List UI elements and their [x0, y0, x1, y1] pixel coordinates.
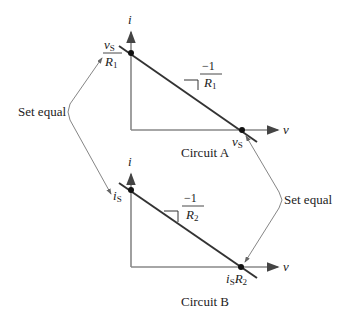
set-equal-right: Set equal	[245, 136, 332, 262]
svg-text:−1: −1	[202, 59, 215, 73]
x-intercept-dot-a	[239, 127, 245, 133]
load-line-a	[119, 46, 257, 142]
arrow-right-up	[246, 136, 279, 192]
set-equal-left-label: Set equal	[18, 104, 66, 119]
arrow-left-down	[70, 120, 111, 194]
set-equal-left: Set equal	[18, 58, 111, 194]
caption-circuit-a: Circuit A	[181, 145, 230, 160]
svg-text:−1: −1	[184, 191, 197, 205]
i-axis-label-a: i	[128, 12, 132, 27]
slope-triangle-a	[184, 80, 198, 90]
svg-text:R1: R1	[104, 54, 117, 70]
x-intercept-label-b: iSR2	[226, 271, 247, 287]
slope-label-a: −1 R1	[200, 59, 222, 91]
graph-circuit-b: i v iS −1 R2 iSR2 Circuit B	[113, 154, 289, 309]
set-equal-right-label: Set equal	[284, 192, 332, 207]
v-axis-label-b: v	[283, 259, 289, 274]
bracket-left	[68, 104, 70, 120]
graph-circuit-a: i v vS R1 −1 R1 vS Circuit A	[103, 12, 289, 160]
arrow-left-up	[70, 58, 102, 104]
arrow-right-down	[245, 208, 279, 262]
v-axis-label-a: v	[283, 122, 289, 137]
y-intercept-dot-a	[128, 50, 134, 56]
caption-circuit-b: Circuit B	[181, 294, 229, 309]
x-intercept-label-a: vS	[232, 134, 243, 150]
svg-text:R1: R1	[203, 75, 216, 91]
y-intercept-dot-b	[128, 187, 134, 193]
x-intercept-dot-b	[238, 264, 244, 270]
svg-text:vS: vS	[104, 37, 115, 53]
bracket-right	[279, 192, 282, 208]
y-intercept-label-b: iS	[113, 188, 122, 204]
svg-text:R2: R2	[185, 207, 198, 223]
y-intercept-label-a: vS R1	[103, 37, 122, 70]
slope-label-b: −1 R2	[182, 191, 204, 223]
i-axis-label-b: i	[128, 154, 132, 169]
thevenin-norton-diagram: i v vS R1 −1 R1 vS Circuit A i v iS −1 R…	[0, 0, 345, 311]
